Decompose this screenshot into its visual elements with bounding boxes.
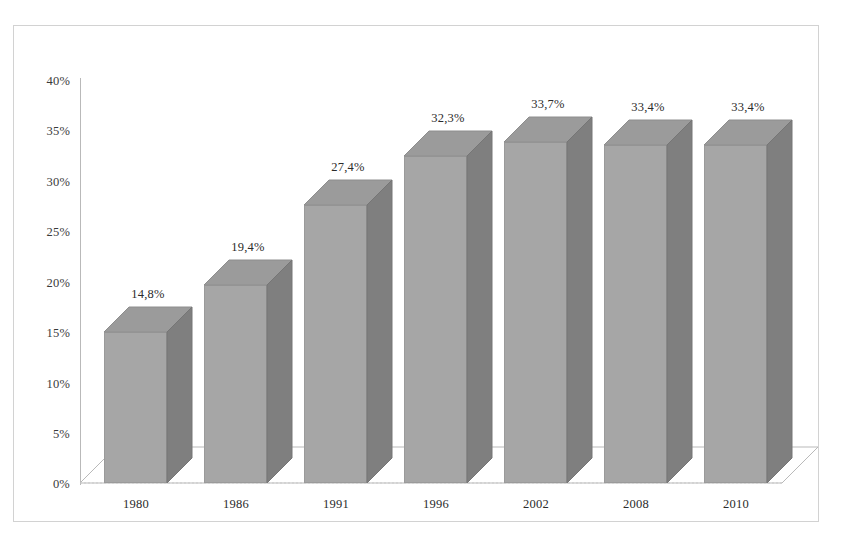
bar-front-face-1991 — [304, 205, 367, 483]
bar-value-label-1986: 19,4% — [202, 240, 294, 255]
bar-value-label-2008: 33,4% — [602, 100, 694, 115]
bars-layer: 14,8% 19,4% 27,4% — [0, 0, 842, 539]
x-cat-label-1991: 1991 — [290, 497, 382, 512]
bar-front-face-1996 — [404, 156, 467, 483]
bar-front-face-1986 — [204, 285, 267, 483]
x-cat-label-1980: 1980 — [90, 497, 182, 512]
x-cat-label-2008: 2008 — [590, 497, 682, 512]
bar-front-face-1980 — [104, 332, 167, 483]
x-cat-label-1996: 1996 — [390, 497, 482, 512]
bar-front-face-2010 — [704, 145, 767, 483]
bar-value-label-1980: 14,8% — [102, 287, 194, 302]
x-cat-label-2010: 2010 — [690, 497, 782, 512]
bar-front-face-2002 — [504, 142, 567, 483]
chart-container: 40% 35% 30% 25% 20% 15% 10% 5% 0% 14,8% … — [0, 0, 842, 539]
bar-value-label-2010: 33,4% — [702, 100, 794, 115]
bar-value-label-2002: 33,7% — [502, 97, 594, 112]
x-cat-label-1986: 1986 — [190, 497, 282, 512]
bar-value-label-1996: 32,3% — [402, 111, 494, 126]
bar-value-label-1991: 27,4% — [302, 160, 394, 175]
x-cat-label-2002: 2002 — [490, 497, 582, 512]
bar-front-face-2008 — [604, 145, 667, 483]
